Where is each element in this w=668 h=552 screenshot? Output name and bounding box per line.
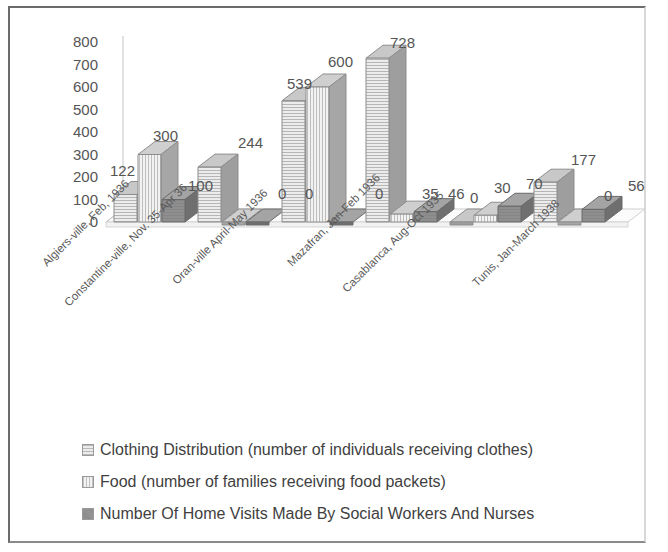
data-value-label: 100 xyxy=(188,178,213,193)
legend-swatch-food-icon xyxy=(82,476,94,488)
data-value-label: 600 xyxy=(328,54,353,69)
data-value-label: 30 xyxy=(494,180,511,195)
data-value-label: 0 xyxy=(278,186,286,201)
data-value-label: 56 xyxy=(628,178,645,193)
legend-item: Food (number of families receiving food … xyxy=(82,466,642,498)
chart-frame: 8007006005004003002001000 12230010024400… xyxy=(8,6,646,543)
data-value-label: 0 xyxy=(375,186,383,201)
data-value-label: 177 xyxy=(571,152,596,167)
data-value-label: 0 xyxy=(305,186,313,201)
data-value-label: 0 xyxy=(470,190,478,205)
y-axis-tick-label: 500 xyxy=(52,102,98,117)
chart-legend: Clothing Distribution (number of individ… xyxy=(82,434,642,530)
data-value-label: 244 xyxy=(238,135,263,150)
y-axis-tick-label: 200 xyxy=(52,169,98,184)
data-value-label: 0 xyxy=(604,188,612,203)
y-axis-tick-label: 700 xyxy=(52,57,98,72)
data-value-label: 70 xyxy=(526,176,543,191)
y-axis-tick-label: 400 xyxy=(52,124,98,139)
legend-item: Number Of Home Visits Made By Social Wor… xyxy=(82,498,642,530)
data-value-label: 300 xyxy=(153,128,178,143)
legend-label-food: Food (number of families receiving food … xyxy=(100,473,446,491)
y-axis-tick-label: 300 xyxy=(52,147,98,162)
data-value-label: 728 xyxy=(390,35,415,50)
data-value-label: 539 xyxy=(287,76,312,91)
y-axis-tick-label: 800 xyxy=(52,34,98,49)
legend-label-home-visits: Number Of Home Visits Made By Social Wor… xyxy=(100,505,534,523)
legend-item: Clothing Distribution (number of individ… xyxy=(82,434,642,466)
data-value-label: 46 xyxy=(448,186,465,201)
y-axis-tick-label: 100 xyxy=(52,192,98,207)
legend-swatch-clothing-icon xyxy=(82,444,94,456)
data-value-label: 122 xyxy=(110,163,135,178)
legend-swatch-home-visits-icon xyxy=(82,508,94,520)
y-axis-tick-label: 600 xyxy=(52,79,98,94)
legend-label-clothing: Clothing Distribution (number of individ… xyxy=(100,441,533,459)
